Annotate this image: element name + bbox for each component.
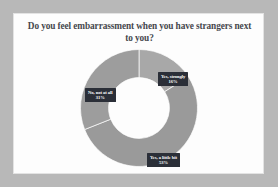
chart-panel: Do you feel embarrassment when you have … (13, 13, 264, 174)
chart-title: Do you feel embarrassment when you have … (26, 21, 253, 44)
slice-label-yes-a-little-bit: Yes, a little bit 53% (147, 153, 180, 167)
donut-chart (80, 49, 198, 167)
slice-label-percent: 16% (161, 79, 185, 84)
screenshot-background: Do you feel embarrassment when you have … (0, 0, 278, 187)
slice-label-percent: 31% (88, 95, 113, 100)
slice-label-text: No, not at all (88, 90, 113, 95)
donut-chart-svg (80, 49, 198, 167)
slice-label-no-not-at-all: No, not at all 31% (85, 88, 116, 102)
slice-label-text: Yes, strongly (161, 74, 185, 79)
slice-label-percent: 53% (150, 160, 177, 165)
slice-label-text: Yes, a little bit (150, 155, 177, 160)
slice-label-yes-strongly: Yes, strongly 16% (158, 72, 188, 86)
